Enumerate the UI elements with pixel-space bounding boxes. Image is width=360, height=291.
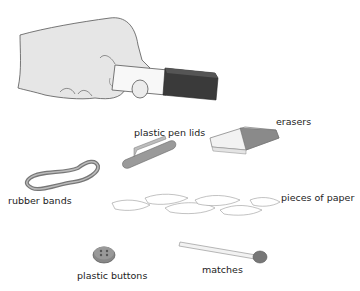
rubber-band-icon [27, 162, 98, 189]
paper-pieces-icon [112, 194, 280, 215]
illustration [0, 0, 360, 291]
label-erasers: erasers [276, 116, 311, 127]
plastic-button-icon [93, 247, 115, 264]
label-buttons: plastic buttons [77, 270, 147, 281]
label-pen-lids: plastic pen lids [134, 127, 205, 138]
label-matches: matches [202, 264, 243, 275]
label-rubber-bands: rubber bands [8, 195, 72, 206]
match-icon [179, 242, 267, 263]
hand-holding-ruler [18, 18, 218, 100]
pen-lid-icon [122, 136, 175, 168]
label-paper: pieces of paper [281, 192, 354, 203]
eraser-icon [210, 127, 279, 154]
